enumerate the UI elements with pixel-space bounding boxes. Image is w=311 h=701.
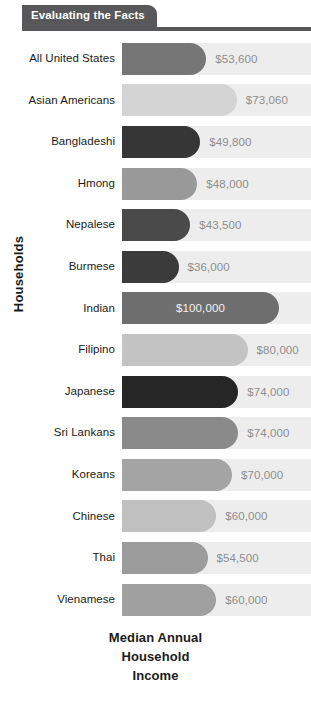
bar-value-label: $80,000 bbox=[257, 334, 299, 366]
bar bbox=[122, 43, 206, 75]
bar-category-label: Koreans bbox=[0, 468, 122, 482]
bar-track: $73,060 bbox=[122, 84, 311, 116]
bar-category-label: Asian Americans bbox=[0, 94, 122, 108]
bar-category-label: Japanese bbox=[0, 385, 122, 399]
header-divider-rule bbox=[22, 27, 311, 31]
bar bbox=[122, 459, 232, 491]
bar-category-label: Filipino bbox=[0, 343, 122, 357]
bar bbox=[122, 334, 248, 366]
bar-category-label: Nepalese bbox=[0, 218, 122, 232]
bar-track: $74,000 bbox=[122, 376, 311, 408]
x-axis-title: Median AnnualHouseholdIncome bbox=[0, 628, 311, 685]
bar-track: $80,000 bbox=[122, 334, 311, 366]
bar-rows-container: All United States$53,600Asian Americans$… bbox=[0, 38, 311, 620]
bar bbox=[122, 376, 238, 408]
chart-root: Evaluating the Facts Households All Unit… bbox=[0, 0, 311, 701]
bar-category-label: Chinese bbox=[0, 510, 122, 524]
x-axis-title-line-3: Income bbox=[0, 666, 311, 685]
header-tab-label: Evaluating the Facts bbox=[31, 10, 145, 22]
bar bbox=[122, 417, 238, 449]
bar-track: $48,000 bbox=[122, 168, 311, 200]
bar-row: Filipino$80,000 bbox=[0, 329, 311, 371]
bar-track: $60,000 bbox=[122, 584, 311, 616]
bar-value-label: $100,000 bbox=[122, 292, 279, 324]
x-axis-title-line-2: Household bbox=[0, 647, 311, 666]
bar-track: $49,800 bbox=[122, 126, 311, 158]
bar-row: Bangladeshi$49,800 bbox=[0, 121, 311, 163]
bar-row: Burmese$36,000 bbox=[0, 246, 311, 288]
bar-category-label: Hmong bbox=[0, 177, 122, 191]
bar-value-label: $53,600 bbox=[215, 43, 257, 75]
bar-track: $60,000 bbox=[122, 500, 311, 532]
bar bbox=[122, 584, 216, 616]
bar-category-label: Sri Lankans bbox=[0, 426, 122, 440]
bar-track: $43,500 bbox=[122, 209, 311, 241]
bar bbox=[122, 84, 237, 116]
bar-row: Japanese$74,000 bbox=[0, 371, 311, 413]
bar bbox=[122, 251, 179, 283]
bar-track: $53,600 bbox=[122, 43, 311, 75]
bar-category-label: Bangladeshi bbox=[0, 135, 122, 149]
bar-value-label: $73,060 bbox=[246, 84, 288, 116]
bar bbox=[122, 168, 197, 200]
bar-row: Vienamese$60,000 bbox=[0, 579, 311, 621]
bar bbox=[122, 126, 200, 158]
bar-row: Hmong$48,000 bbox=[0, 163, 311, 205]
bar-category-label: Burmese bbox=[0, 260, 122, 274]
bar-value-label: $60,000 bbox=[225, 500, 267, 532]
bar-row: Chinese$60,000 bbox=[0, 496, 311, 538]
bar-value-label: $49,800 bbox=[209, 126, 251, 158]
bar-value-label: $36,000 bbox=[188, 251, 230, 283]
bar-value-label: $70,000 bbox=[241, 459, 283, 491]
bar-track: $70,000 bbox=[122, 459, 311, 491]
bar-track: $74,000 bbox=[122, 417, 311, 449]
bar-value-label: $43,500 bbox=[199, 209, 241, 241]
bar-row: Nepalese$43,500 bbox=[0, 204, 311, 246]
bar-row: Thai$54,500 bbox=[0, 537, 311, 579]
bar-value-label: $54,500 bbox=[217, 542, 259, 574]
bar-category-label: Vienamese bbox=[0, 593, 122, 607]
bar-category-label: Thai bbox=[0, 551, 122, 565]
bar-track: $100,000 bbox=[122, 292, 311, 324]
bar-value-label: $60,000 bbox=[225, 584, 267, 616]
header-tab: Evaluating the Facts bbox=[22, 5, 157, 27]
bar-value-label: $74,000 bbox=[247, 376, 289, 408]
bar-row: Koreans$70,000 bbox=[0, 454, 311, 496]
bar-row: Asian Americans$73,060 bbox=[0, 80, 311, 122]
bar-track: $54,500 bbox=[122, 542, 311, 574]
bar-row: Indian$100,000 bbox=[0, 288, 311, 330]
bar-value-label: $74,000 bbox=[247, 417, 289, 449]
bar-value-label: $48,000 bbox=[206, 168, 248, 200]
bar-category-label: All United States bbox=[0, 52, 122, 66]
bar-category-label: Indian bbox=[0, 302, 122, 316]
bar bbox=[122, 542, 208, 574]
x-axis-title-line-1: Median Annual bbox=[0, 628, 311, 647]
bar-track: $36,000 bbox=[122, 251, 311, 283]
bar-row: Sri Lankans$74,000 bbox=[0, 412, 311, 454]
bar bbox=[122, 500, 216, 532]
bar-row: All United States$53,600 bbox=[0, 38, 311, 80]
chart-header: Evaluating the Facts bbox=[0, 0, 311, 34]
bar bbox=[122, 209, 190, 241]
